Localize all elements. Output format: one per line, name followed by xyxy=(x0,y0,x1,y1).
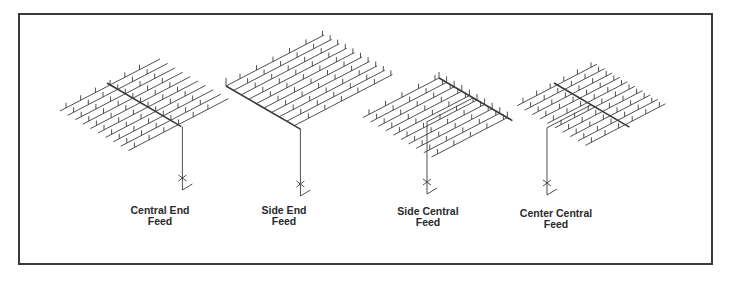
label-central-end-feed: Central End Feed xyxy=(95,205,225,227)
label-line-2: Feed xyxy=(363,217,493,228)
label-side-end-feed: Side End Feed xyxy=(219,205,349,227)
label-center-central-feed: Center Central Feed xyxy=(491,208,621,230)
center-central-feed-diagram xyxy=(517,62,665,195)
central-end-feed-diagram xyxy=(60,59,228,190)
side-central-feed-diagram xyxy=(363,72,512,194)
label-line-2: Feed xyxy=(491,219,621,230)
label-line-2: Feed xyxy=(219,216,349,227)
label-line-2: Feed xyxy=(95,216,225,227)
label-side-central-feed: Side Central Feed xyxy=(363,206,493,228)
side-end-feed-diagram xyxy=(226,31,392,196)
piping-diagrams xyxy=(0,0,732,285)
